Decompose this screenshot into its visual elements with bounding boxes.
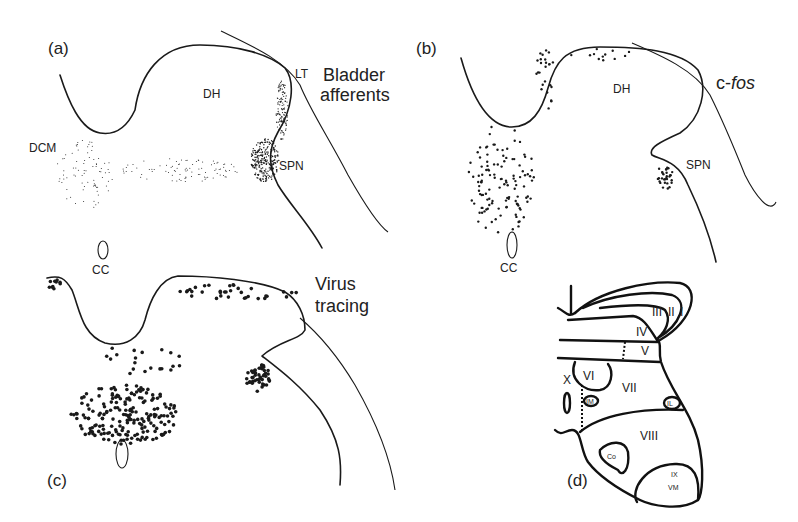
virus-cell-dot bbox=[186, 289, 190, 293]
afferent-dot bbox=[262, 172, 263, 173]
afferent-dot bbox=[260, 160, 261, 161]
afferent-dot bbox=[263, 176, 264, 177]
panel-a-label-dcm: DCM bbox=[29, 141, 56, 155]
virus-cell-dot bbox=[219, 294, 223, 298]
afferent-dot bbox=[266, 151, 267, 152]
virus-cell-dot bbox=[265, 294, 269, 298]
cfos-cell-dot bbox=[495, 218, 497, 220]
afferent-dot bbox=[187, 160, 188, 161]
afferent-dot bbox=[207, 177, 208, 178]
afferent-dot bbox=[283, 96, 284, 97]
afferent-dot bbox=[261, 142, 262, 143]
virus-cell-dot bbox=[266, 369, 270, 373]
virus-cell-dot bbox=[125, 388, 129, 392]
afferent-dot bbox=[268, 155, 269, 156]
virus-cell-dot bbox=[207, 284, 211, 288]
afferent-dot bbox=[82, 182, 83, 183]
cfos-cell-dot bbox=[669, 174, 671, 176]
afferent-dot bbox=[76, 161, 77, 162]
virus-cell-dot bbox=[215, 297, 219, 301]
afferent-dot bbox=[282, 99, 283, 100]
panel-a-label-cc: CC bbox=[92, 263, 110, 277]
cfos-cell-dot bbox=[493, 163, 495, 165]
virus-cell-dot bbox=[151, 397, 155, 401]
cfos-cell-dot bbox=[548, 63, 550, 65]
afferent-dot bbox=[87, 152, 88, 153]
panel-b-label-dh: DH bbox=[613, 82, 630, 96]
afferent-dot bbox=[254, 154, 255, 155]
virus-cell-dot bbox=[133, 361, 137, 365]
afferent-dot bbox=[172, 180, 173, 181]
panel-a: (a) Bladder afferents DH LT DCM SPN CC bbox=[29, 31, 390, 277]
afferent-dot bbox=[223, 175, 224, 176]
afferent-dot bbox=[252, 164, 253, 165]
afferent-dot bbox=[252, 150, 253, 151]
virus-cell-dot bbox=[140, 351, 144, 355]
cfos-cell-dot bbox=[544, 80, 546, 82]
afferent-dot bbox=[257, 161, 258, 162]
afferent-dot bbox=[264, 139, 265, 140]
afferent-dot bbox=[75, 203, 76, 204]
afferent-dot bbox=[126, 167, 127, 168]
afferent-dot bbox=[276, 166, 277, 167]
panel-b: (b) c-fos DH SPN CC bbox=[416, 39, 776, 275]
afferent-dot bbox=[285, 98, 286, 99]
cfos-cell-dot bbox=[477, 151, 479, 153]
afferent-dot bbox=[214, 170, 215, 171]
afferent-dot bbox=[261, 162, 262, 163]
afferent-dot bbox=[267, 154, 268, 155]
virus-cell-dot bbox=[97, 387, 101, 391]
afferent-dot bbox=[274, 159, 275, 160]
afferent-dot bbox=[72, 153, 73, 154]
cfos-cell-dot bbox=[514, 129, 516, 131]
afferent-dot bbox=[133, 164, 134, 165]
cfos-cell-dot bbox=[612, 50, 614, 52]
panel-d-label-im: IM bbox=[586, 398, 594, 405]
afferent-dot bbox=[265, 161, 266, 162]
cfos-cell-dot bbox=[602, 55, 604, 57]
panel-c-dorsal-horn-outline bbox=[47, 276, 341, 485]
virus-cell-dot bbox=[102, 427, 106, 431]
virus-cell-dot bbox=[124, 408, 128, 412]
virus-cell-dot bbox=[245, 377, 249, 381]
afferent-dot bbox=[278, 85, 279, 86]
afferent-dot bbox=[82, 175, 83, 176]
panel-d-label-IV: IV bbox=[636, 325, 647, 339]
afferent-dot bbox=[84, 160, 85, 161]
afferent-dot bbox=[286, 125, 287, 126]
cfos-cell-dot bbox=[489, 174, 491, 176]
cfos-cell-dot bbox=[478, 212, 480, 214]
afferent-dot bbox=[281, 120, 282, 121]
virus-cell-dot bbox=[190, 294, 194, 298]
panel-d-midline-dorsal bbox=[558, 286, 575, 315]
virus-cell-dot bbox=[126, 433, 130, 437]
virus-cell-dot bbox=[129, 442, 133, 446]
afferent-dot bbox=[224, 164, 225, 165]
afferent-dot bbox=[65, 154, 66, 155]
virus-cell-dot bbox=[160, 367, 164, 371]
afferent-dot bbox=[176, 181, 177, 182]
afferent-dot bbox=[287, 117, 288, 118]
cfos-cell-dot bbox=[523, 216, 525, 218]
afferent-dot bbox=[186, 160, 187, 161]
afferent-dot bbox=[284, 93, 285, 94]
virus-cell-dot bbox=[255, 389, 259, 393]
virus-cell-dot bbox=[169, 351, 173, 355]
cfos-cell-dot bbox=[498, 207, 500, 209]
afferent-dot bbox=[213, 160, 214, 161]
afferent-dot bbox=[286, 120, 287, 121]
cfos-cell-dot bbox=[538, 71, 540, 73]
afferent-dot bbox=[282, 89, 283, 90]
afferent-dot bbox=[252, 167, 253, 168]
afferent-dot bbox=[275, 157, 276, 158]
virus-cell-dot bbox=[132, 349, 136, 353]
afferent-dot bbox=[264, 157, 265, 158]
afferent-dot bbox=[263, 147, 264, 148]
afferent-dot bbox=[276, 150, 277, 151]
virus-cell-dot bbox=[82, 395, 86, 399]
cfos-cell-dot bbox=[540, 58, 542, 60]
cfos-cell-dot bbox=[624, 55, 626, 57]
virus-cell-dot bbox=[145, 412, 149, 416]
afferent-dot bbox=[279, 84, 280, 85]
virus-cell-dot bbox=[200, 290, 204, 294]
